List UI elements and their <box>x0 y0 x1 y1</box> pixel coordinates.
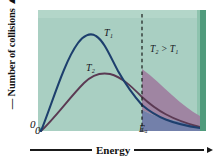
panel-right-edge <box>200 10 206 136</box>
x-axis-rule-right <box>134 149 204 150</box>
panel-right-edge-inner <box>197 10 200 132</box>
origin-label-x: 0 <box>35 124 41 136</box>
panel-highlight <box>38 10 200 18</box>
panel-bottom-edge <box>38 131 206 136</box>
x-axis-rule-left <box>30 149 92 150</box>
x-axis-label-text: Energy <box>96 144 130 156</box>
distribution-chart <box>0 0 217 164</box>
temperature-comparison-label: T₂ > T₁ <box>150 44 178 54</box>
right-arrow-icon <box>207 147 213 153</box>
activation-energy-label: Eₐ <box>139 124 148 134</box>
curve-label-t2: T₂ <box>86 62 95 73</box>
curve-label-t1: T₁ <box>104 27 113 38</box>
x-axis-label: Energy <box>30 144 213 156</box>
